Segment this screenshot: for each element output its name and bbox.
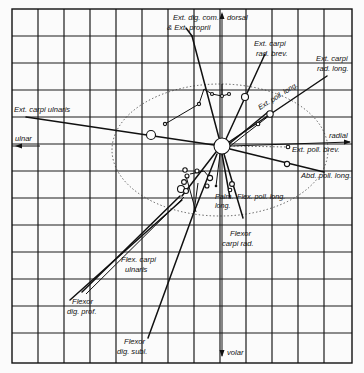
label-ext-carpi-rad-long-2: rad. long. [317, 64, 349, 73]
label-flexor-dig-subl-1: Flexor [124, 337, 146, 346]
label-ulnar: ulnar [15, 134, 32, 143]
label-flexor-carpi-rad-1: Flexor [230, 229, 252, 238]
label-ext-dig-com: Ext. dig. com. [173, 13, 219, 22]
label-ext-poll-long: Ext. poll. long. [256, 80, 299, 112]
label-flexor-dig-subl-2: dig. subl. [117, 347, 147, 356]
label-flex-carpi-ulnaris-2: ulnaris [125, 265, 148, 274]
center-circle [214, 138, 230, 154]
label-ext-poll-brev: Ext. poll. brev. [292, 145, 340, 154]
label-ext-carpi-ulnaris: Ext. carpi ulnaris [14, 105, 70, 114]
label-palm: Palm. [215, 192, 233, 201]
wrist-muscle-diagram: Ext. dig. com. & Ext. proprii dorsal Ext… [0, 0, 364, 373]
label-radial: radial [329, 131, 348, 140]
label-flex-carpi-ulnaris-1: Flex. carpi [121, 255, 156, 264]
label-ext-carpi-rad-long-1: Ext. carpi [316, 54, 348, 63]
label-palm-long: long. [215, 201, 231, 210]
label-volar: volar [227, 348, 244, 357]
label-flex-poll-long: Flex. poll. long. [237, 192, 285, 201]
label-dorsal: dorsal [227, 13, 248, 22]
label-flexor-carpi-rad-2: carpi rad. [222, 239, 254, 248]
tendon-lines [26, 28, 327, 338]
label-flexor-dig-prof-2: dig. prof. [67, 307, 97, 316]
label-flexor-dig-prof-1: Flexor [72, 297, 94, 306]
label-ext-proprii: & Ext. proprii [167, 23, 211, 32]
label-ext-carpi-rad-brev-1: Ext. carpi [254, 39, 286, 48]
label-abd-poll-long: Abd. poll. long. [300, 171, 351, 180]
label-ext-carpi-rad-brev-2: rad. brev. [256, 49, 288, 58]
